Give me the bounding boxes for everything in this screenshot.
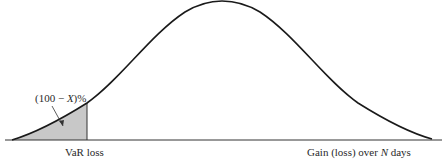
var-distribution-figure [0,0,442,162]
x-axis-label-text: Gain (loss) over N days [307,146,411,158]
tail-percent-label: (100 − X)% [35,92,86,104]
shaded-tail-area [12,103,87,140]
var-loss-label: VaR loss [65,146,104,158]
x-axis-label: Gain (loss) over N days [307,146,411,158]
